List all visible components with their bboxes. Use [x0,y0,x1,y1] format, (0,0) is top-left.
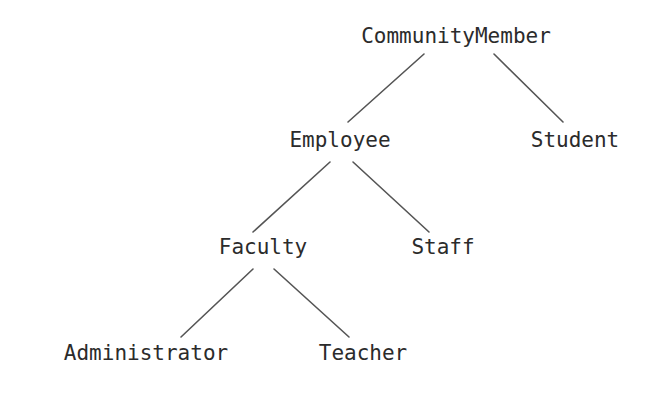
edge-community-member-student [494,54,563,122]
node-administrator: Administrator [64,341,228,365]
node-community-member: CommunityMember [361,24,551,48]
edge-employee-staff [353,162,429,232]
edge-faculty-teacher [274,269,349,337]
edge-faculty-administrator [181,269,253,337]
node-student: Student [531,128,620,152]
node-faculty: Faculty [219,235,308,259]
edge-employee-faculty [253,162,330,232]
edge-community-member-employee [348,54,424,122]
edge-layer [0,0,658,399]
class-hierarchy-diagram: CommunityMemberEmployeeStudentFacultySta… [0,0,658,399]
node-teacher: Teacher [319,341,408,365]
node-employee: Employee [289,128,390,152]
node-staff: Staff [411,235,474,259]
